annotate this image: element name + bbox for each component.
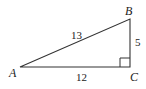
vertex-label-b: B xyxy=(125,4,133,18)
vertex-label-a: A xyxy=(8,66,17,80)
side-label-ac: 12 xyxy=(76,71,87,83)
triangle-diagram: B A C 13 12 5 xyxy=(0,0,146,89)
side-label-bc: 5 xyxy=(135,36,141,48)
side-label-ab: 13 xyxy=(71,29,83,41)
triangle-abc xyxy=(20,19,130,67)
right-angle-marker xyxy=(120,58,130,67)
vertex-label-c: C xyxy=(130,70,139,84)
